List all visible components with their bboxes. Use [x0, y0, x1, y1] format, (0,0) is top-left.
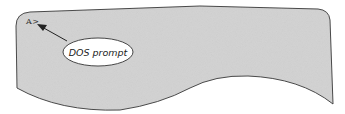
dos-screen-diagram: A> DOS prompt — [0, 0, 345, 114]
monitor-screen-shape — [0, 0, 345, 114]
dos-prompt-text: A> — [26, 17, 39, 26]
callout-label: DOS prompt — [63, 38, 133, 66]
